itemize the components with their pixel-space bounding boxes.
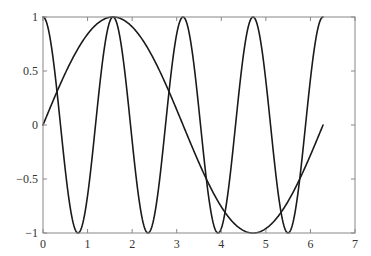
x-tick-label: 0 [40, 237, 46, 251]
x-tick-label: 5 [263, 237, 269, 251]
y-tick-label: 1 [32, 10, 38, 24]
ticks-layer [43, 17, 355, 233]
x-tick-label: 4 [218, 237, 224, 251]
y-tick-label: 0.5 [23, 64, 38, 78]
y-tick-label: 0 [32, 118, 38, 132]
line-chart: 01234567 10.50−0.5−1 [0, 0, 371, 256]
x-tick-label: 3 [174, 237, 180, 251]
y-axis-tick-labels: 10.50−0.5−1 [16, 10, 38, 240]
series-layer [43, 17, 323, 233]
y-tick-label: −0.5 [16, 172, 38, 186]
axes-frame [43, 17, 355, 233]
x-tick-label: 2 [129, 237, 135, 251]
y-tick-label: −1 [25, 226, 38, 240]
x-tick-label: 7 [352, 237, 358, 251]
x-tick-label: 1 [85, 237, 91, 251]
x-tick-label: 6 [307, 237, 313, 251]
series-sin-x-line [43, 17, 323, 233]
x-axis-tick-labels: 01234567 [40, 237, 358, 251]
